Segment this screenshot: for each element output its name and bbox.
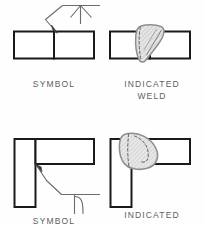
caption-indicated-top-line2: WELD [100,91,204,103]
caption-symbol-top: SYMBOL [0,79,108,90]
welding-symbol-figure [0,0,204,225]
plate-horizontal [36,139,95,164]
butt-joint-plates-symbol [14,32,94,59]
plate-left [14,32,54,59]
caption-indicated-bottom-line1: INDICATED [100,210,204,222]
plate-right [54,32,94,59]
caption-indicated-top-line1: INDICATED [100,79,204,91]
plate-vertical [15,139,36,207]
caption-symbol-bottom: SYMBOL [0,216,108,225]
